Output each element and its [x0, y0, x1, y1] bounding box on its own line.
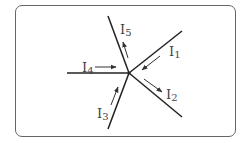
arrow-i3-icon [111, 87, 118, 105]
label-i3: I3 [97, 106, 109, 122]
label-i5: I5 [120, 22, 132, 38]
junction-node [128, 72, 131, 75]
label-i4: I4 [82, 60, 94, 76]
arrow-i5-icon [123, 42, 128, 58]
wire-i3 [108, 73, 129, 129]
arrow-i1-icon [142, 56, 160, 70]
arrow-i2-icon [144, 79, 162, 92]
kcl-node-diagram: I5 I1 I4 I2 I3 [0, 0, 246, 143]
wire-i5 [108, 16, 129, 73]
label-i1: I1 [169, 44, 181, 60]
label-i2: I2 [166, 87, 178, 103]
